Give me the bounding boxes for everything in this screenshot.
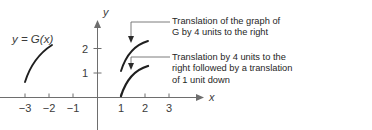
curve-original: [25, 45, 52, 82]
x-tick-label-2: 2: [142, 102, 148, 114]
x-axis: [0, 94, 204, 102]
leader-line-1: [128, 22, 170, 43]
annotation-translation-right-down: Translation by 4 units to the right foll…: [172, 52, 372, 86]
graph-figure: −3 −2 −1 1 2 3 2 1 y x y = G(x) Translat…: [0, 0, 372, 130]
x-tick-label--3: −3: [19, 102, 32, 114]
x-axis-label: x: [208, 91, 215, 103]
x-tick-label--2: −2: [43, 102, 56, 114]
x-tick-label-3: 3: [166, 102, 172, 114]
leader-line-2: [128, 57, 170, 70]
y-axis: [94, 20, 102, 130]
annotation-translation-right: Translation of the graph of G by 4 units…: [172, 16, 368, 39]
x-tick-label-1: 1: [118, 102, 124, 114]
curve-shifted-right-down: [121, 66, 148, 96]
y-axis-label: y: [102, 6, 110, 18]
y-tick-label-2: 2: [82, 43, 88, 55]
x-tick-label--1: −1: [67, 102, 80, 114]
y-tick-label-1: 1: [82, 67, 88, 79]
